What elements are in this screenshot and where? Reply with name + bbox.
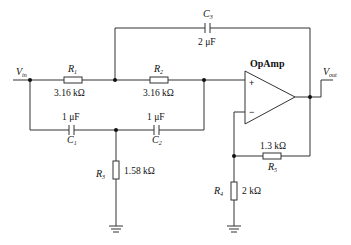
r3-value: 1.58 kΩ [124,166,155,176]
capacitor-c3 [205,23,210,33]
node-r1-r2 [113,78,117,82]
r3-label: R3 [95,168,105,180]
node-c1-c2 [114,128,118,132]
opamp-minus-sign: − [249,107,254,117]
vin-label: Vin [16,66,27,78]
node-output [308,95,312,99]
resistor-r2 [150,77,168,83]
c1-value: 1 μF [62,112,80,122]
node-r4-r5 [232,154,236,158]
r1-value: 3.16 kΩ [54,88,85,98]
node-vin [28,78,32,82]
r5-value: 1.3 kΩ [260,141,286,151]
node-plus [202,78,206,82]
c3-value: 2 μF [198,37,216,47]
opamp-plus-sign: + [249,78,254,88]
resistor-r3 [113,161,119,179]
c2-value: 1 μF [147,112,165,122]
wires [13,28,333,226]
r4-fill [233,183,235,199]
r5-label: R5 [267,161,277,173]
ground-r4-icon [227,226,241,232]
r4-value: 2 kΩ [242,186,261,196]
c1-label: C1 [67,134,77,146]
c3-label: C3 [203,8,213,20]
opamp-label: OpAmp [250,58,285,69]
ground-r3-icon [109,226,123,232]
r2-value: 3.16 kΩ [143,88,174,98]
vout-label: Vout [323,66,337,78]
resistor-r5 [263,153,281,159]
r1-label: R1 [67,63,77,75]
r4-label: R4 [213,185,223,197]
r2-label: R2 [153,63,163,75]
circuit-diagram: Vin Vout R1 3.16 kΩ R2 3.16 kΩ R3 1.58 k… [0,0,351,245]
resistor-r1 [64,77,82,83]
c2-label: C2 [152,134,162,146]
